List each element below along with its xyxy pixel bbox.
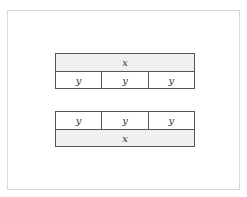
part-cell: y	[101, 112, 147, 129]
whole-cell: x	[56, 54, 194, 71]
part-cell: y	[56, 112, 101, 129]
part-cell: y	[101, 72, 147, 88]
part-cell: y	[56, 72, 101, 88]
parts-row: y y y	[56, 71, 194, 88]
part-cell: y	[148, 112, 194, 129]
whole-row: x	[56, 54, 194, 71]
parts-row: y y y	[56, 112, 194, 129]
whole-cell: x	[56, 130, 194, 146]
diagram-frame	[7, 10, 240, 190]
top-bar-model: x y y y	[55, 53, 195, 89]
bottom-bar-model: y y y x	[55, 111, 195, 147]
part-cell: y	[148, 72, 194, 88]
whole-row: x	[56, 129, 194, 146]
